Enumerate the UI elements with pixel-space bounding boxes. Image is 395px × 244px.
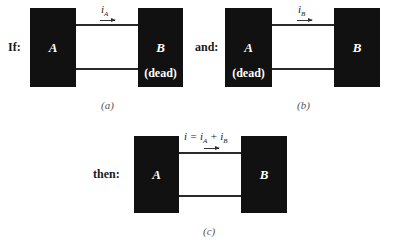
box-label: A xyxy=(30,40,76,56)
wire-top xyxy=(76,24,138,26)
wire-bottom xyxy=(179,195,241,197)
current-label: iA xyxy=(101,3,108,18)
caption-c: (c) xyxy=(203,225,215,237)
panel-b-prefix: and: xyxy=(195,40,218,55)
panel-a-box-b: B (dead) xyxy=(138,8,183,87)
panel-a-prefix: If: xyxy=(8,40,21,55)
box-label: A xyxy=(134,167,179,183)
panel-a-box-a: A xyxy=(30,8,76,87)
dead-status: (dead) xyxy=(138,66,183,81)
dead-status: (dead) xyxy=(225,66,272,81)
caption-a: (a) xyxy=(101,99,114,111)
wire-bottom xyxy=(272,68,334,70)
current-label: iB xyxy=(298,3,305,18)
box-label: B xyxy=(241,167,287,183)
box-label: B xyxy=(138,40,183,56)
box-label: B xyxy=(334,40,380,56)
current-sum-label: i = iA + iB xyxy=(184,130,228,145)
wire-top xyxy=(179,152,241,154)
panel-c-prefix: then: xyxy=(93,167,120,182)
current-arrow-icon xyxy=(100,20,115,21)
wire-bottom xyxy=(76,68,138,70)
current-arrow-icon xyxy=(204,148,219,149)
current-arrow-icon xyxy=(297,20,312,21)
panel-b-box-a: A (dead) xyxy=(225,8,272,87)
panel-c-box-a: A xyxy=(134,136,179,213)
panel-c-box-b: B xyxy=(241,136,287,213)
caption-b: (b) xyxy=(297,99,310,111)
wire-top xyxy=(272,24,334,26)
panel-b-box-b: B xyxy=(334,8,380,87)
box-label: A xyxy=(225,40,272,56)
